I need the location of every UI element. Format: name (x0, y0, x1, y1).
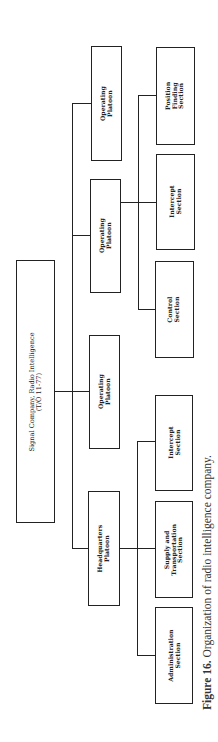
node-headquarters-platoon: Headquarters Platoon (88, 491, 120, 606)
node-label: Intercept Section (167, 427, 180, 459)
connector-trunk-to-platoon-2 (72, 391, 89, 392)
figure-caption: Figure 16. Organization of radio intelli… (199, 250, 215, 710)
connector-to-supply (137, 548, 155, 549)
connector-to-control (138, 309, 155, 310)
node-supply-transportation-section: Supply and Transportation Section (155, 501, 193, 598)
node-label: Operating Platoon (99, 219, 112, 254)
connector-platoon-3-to-trunk (120, 202, 138, 203)
node-label: Operating Platoon (98, 375, 111, 410)
connector-hq-to-sub-trunk (119, 548, 137, 549)
figure-caption-text: Organization of radio intelligence compa… (201, 455, 213, 660)
node-label: Supply and Transportation Section (164, 524, 184, 576)
connector-trunk-to-platoon-3 (72, 235, 90, 236)
node-label: Administration Section (167, 629, 180, 681)
connector-root-to-trunk (54, 391, 72, 392)
node-label: Intercept Section (169, 186, 182, 218)
connector-main-trunk (72, 103, 73, 549)
connector-to-administration (137, 655, 155, 656)
node-operating-platoon-3: Operating Platoon (90, 179, 121, 293)
node-administration-section: Administration Section (155, 607, 193, 704)
node-label: Control Section (168, 296, 181, 322)
node-intercept-section-lower: Intercept Section (155, 395, 193, 491)
node-label: Position Finding Section (166, 82, 186, 110)
node-intercept-section-upper: Intercept Section (156, 154, 195, 250)
node-operating-platoon-2: Operating Platoon (89, 335, 120, 449)
root-node-signal-company: Signal Company, Radio Intelligence (T/O … (16, 260, 55, 523)
connector-trunk-to-platoon-4 (72, 103, 91, 104)
node-control-section: Control Section (155, 261, 194, 358)
figure-caption-prefix: Figure 16. (201, 660, 213, 710)
connector-trunk-to-platoon-1 (72, 548, 88, 549)
connector-to-position-finding (138, 95, 156, 96)
connector-to-intercept-lower (137, 441, 155, 442)
node-position-finding-section: Position Finding Section (156, 47, 195, 145)
root-node-label: Signal Company, Radio Intelligence (T/O … (29, 332, 43, 451)
node-operating-platoon-4: Operating Platoon (91, 46, 122, 161)
node-label: Headquarters Platoon (97, 525, 110, 573)
connector-to-intercept-upper (138, 202, 156, 203)
node-label: Operating Platoon (100, 86, 113, 121)
